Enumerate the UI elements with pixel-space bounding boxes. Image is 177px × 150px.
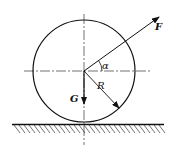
diagram-canvas: F α G R — [0, 0, 177, 150]
hatch-line — [39, 125, 45, 133]
hatch-line — [84, 125, 90, 133]
angle-label: α — [102, 60, 109, 71]
force-label: F — [154, 21, 163, 32]
hatch-line — [49, 125, 55, 133]
hatch-line — [139, 125, 145, 133]
hatch-line — [114, 125, 120, 133]
hatch-line — [149, 125, 155, 133]
hatch-line — [129, 125, 135, 133]
hatch-line — [64, 125, 70, 133]
gravity-label: G — [70, 93, 79, 104]
hatch-line — [69, 125, 75, 133]
hatch-line — [119, 125, 125, 133]
hatch-line — [24, 125, 30, 133]
hatch-line — [44, 125, 50, 133]
hatch-line — [159, 125, 165, 133]
hatch-line — [154, 125, 160, 133]
hatch-line — [74, 125, 80, 133]
hatch-line — [14, 125, 20, 133]
hatch-line — [59, 125, 65, 133]
hatch-line — [134, 125, 140, 133]
ground-hatching — [14, 125, 165, 133]
hatch-line — [89, 125, 95, 133]
hatch-line — [104, 125, 110, 133]
force-arrow — [84, 17, 159, 71]
hatch-line — [144, 125, 150, 133]
hatch-line — [109, 125, 115, 133]
hatch-line — [34, 125, 40, 133]
hatch-line — [124, 125, 130, 133]
hatch-line — [94, 125, 100, 133]
hatch-line — [54, 125, 60, 133]
hatch-line — [99, 125, 105, 133]
hatch-line — [19, 125, 25, 133]
hatch-line — [29, 125, 35, 133]
radius-label: R — [96, 80, 105, 91]
